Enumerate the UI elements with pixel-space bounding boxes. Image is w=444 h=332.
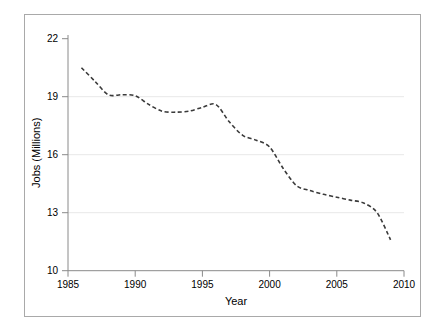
y-tick-label-13: 13 [47,207,59,218]
x-tick-label-2005: 2005 [326,279,349,290]
y-tick-labels: 22 19 16 13 10 [47,33,59,276]
y-tick-label-19: 19 [47,91,59,102]
x-axis-title: Year [225,295,248,307]
x-tick-label-1985: 1985 [57,279,80,290]
y-tick-marks [62,39,68,271]
x-tick-marks [68,271,404,277]
chart-figure: 22 19 16 13 10 1985 1990 1995 2000 2005 … [0,0,444,332]
y-axis-title: Jobs (Millions) [30,118,42,188]
y-tick-label-10: 10 [47,265,59,276]
y-tick-label-16: 16 [47,149,59,160]
y-tick-label-22: 22 [47,33,59,44]
data-line-jobs [81,68,390,240]
gridlines [68,97,404,213]
x-tick-label-2000: 2000 [258,279,281,290]
x-tick-label-1995: 1995 [191,279,214,290]
line-chart: 22 19 16 13 10 1985 1990 1995 2000 2005 … [0,0,444,332]
x-tick-label-2010: 2010 [393,279,416,290]
x-tick-labels: 1985 1990 1995 2000 2005 2010 [57,279,416,290]
x-tick-label-1990: 1990 [124,279,147,290]
